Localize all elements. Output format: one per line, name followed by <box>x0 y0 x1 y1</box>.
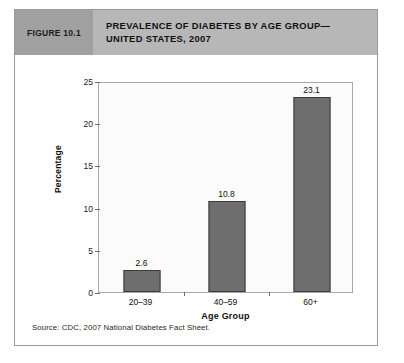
bar-group: 10.8 <box>184 83 269 292</box>
y-axis-tick-label: 20 <box>84 119 93 129</box>
figure-title-line-2: UNITED STATES, 2007 <box>106 33 369 46</box>
figure-number-label: FIGURE 10.1 <box>27 28 81 38</box>
y-axis-title: Percentage <box>53 145 63 193</box>
y-axis-tick-mark <box>95 293 100 294</box>
bar-group: 2.6 <box>99 83 184 292</box>
y-axis-tick-label: 15 <box>84 161 93 171</box>
chart-body: Percentage 0510152025 2.610.823.1 20–394… <box>15 55 377 345</box>
bar <box>208 201 245 292</box>
figure-card: FIGURE 10.1 PREVALENCE OF DIABETES BY AG… <box>14 9 378 346</box>
source-note: Source: CDC, 2007 National Diabetes Fact… <box>32 323 210 332</box>
figure-title-block: PREVALENCE OF DIABETES BY AGE GROUP— UNI… <box>93 10 377 55</box>
bars-layer: 2.610.823.1 <box>99 83 352 292</box>
figure-header: FIGURE 10.1 PREVALENCE OF DIABETES BY AG… <box>15 10 377 55</box>
bar-value-label: 23.1 <box>303 85 320 95</box>
y-axis-tick-label: 5 <box>88 246 93 256</box>
figure-title-line-1: PREVALENCE OF DIABETES BY AGE GROUP— <box>106 20 369 33</box>
bar-group: 23.1 <box>269 83 354 292</box>
x-axis-category-label: 40–59 <box>183 297 268 307</box>
bar-value-label: 2.6 <box>136 258 148 268</box>
y-axis-tick-label: 0 <box>88 288 93 298</box>
figure-number-block: FIGURE 10.1 <box>15 10 93 55</box>
x-axis-category-label: 20–39 <box>98 297 183 307</box>
y-axis-tick-label: 10 <box>84 204 93 214</box>
bar-value-label: 10.8 <box>218 189 235 199</box>
y-axis-tick-label: 25 <box>84 77 93 87</box>
x-axis-title: Age Group <box>98 311 353 321</box>
x-axis-tick-mark <box>269 292 270 296</box>
plot-area: 0510152025 2.610.823.1 <box>98 82 353 293</box>
bar <box>293 97 330 292</box>
x-axis-tick-mark <box>184 292 185 296</box>
x-axis-category-label: 60+ <box>268 297 353 307</box>
bar <box>123 270 160 292</box>
